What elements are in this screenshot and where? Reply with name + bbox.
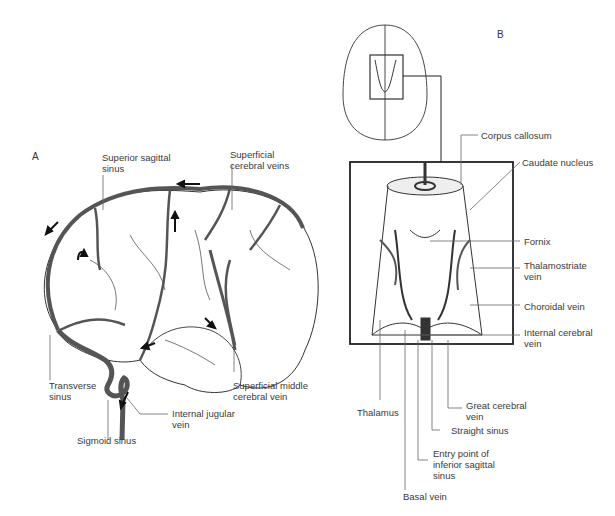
panel-a-letter: A	[32, 151, 39, 162]
label-basal-vein: Basal vein	[403, 491, 447, 502]
label-thalamus: Thalamus	[357, 407, 399, 418]
label-caudate-nucleus: Caudate nucleus	[522, 157, 593, 168]
panel-b-letter: B	[497, 29, 504, 40]
label-internal-jugular-vein: Internal jugular vein	[172, 408, 235, 430]
label-superior-sagittal-sinus: Superior sagittal sinus	[102, 152, 171, 174]
axial-brain-thumbnail	[343, 25, 427, 140]
label-thalamostriate-vein: Thalamostriate vein	[524, 260, 587, 282]
label-choroidal-vein: Choroidal vein	[524, 301, 585, 312]
label-internal-cerebral-vein: Internal cerebral vein	[524, 327, 593, 349]
deep-veins-illustration	[372, 162, 482, 340]
label-sigmoid-sinus: Sigmoid sinus	[77, 435, 136, 446]
label-fornix: Fornix	[524, 236, 550, 247]
label-entry-point-inferior-sagittal-sinus: Entry point of inferior sagittal sinus	[433, 448, 495, 481]
superior-sagittal-sinus-vessel	[48, 187, 303, 330]
flow-arrows	[46, 181, 215, 408]
label-straight-sinus: Straight sinus	[451, 425, 509, 436]
label-corpus-callosum: Corpus callosum	[481, 130, 552, 141]
label-superficial-middle-cerebral-vein: Superficial middle cerebral vein	[233, 380, 308, 402]
superficial-cerebral-veins	[60, 188, 280, 360]
label-superficial-cerebral-veins: Superficial cerebral veins	[230, 149, 289, 171]
label-great-cerebral-vein: Great cerebral vein	[466, 400, 527, 422]
label-transverse-sinus: Transverse sinus	[49, 380, 96, 402]
lateral-brain-illustration	[44, 190, 318, 393]
superficial-middle-cerebral-vein-vessel	[210, 250, 235, 350]
